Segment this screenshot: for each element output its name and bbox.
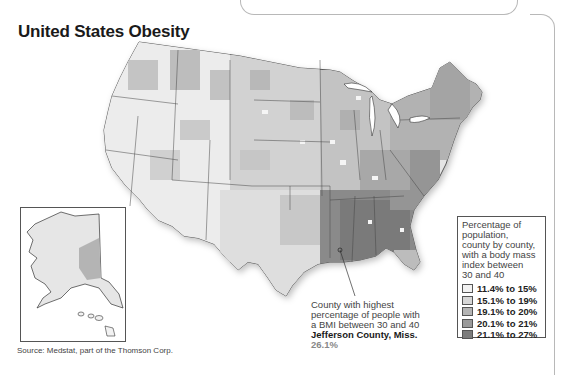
legend-item: 20.1% to 21%	[462, 318, 541, 330]
legend-item-label: 19.1% to 20%	[477, 306, 537, 318]
legend-item: 19.1% to 20%	[462, 306, 541, 318]
legend-item-label: 15.1% to 19%	[477, 295, 537, 307]
legend-item: 21.1% to 27%	[462, 329, 541, 341]
callout-county-value: 26.1%	[311, 340, 420, 350]
legend-title: Percentage of population, county by coun…	[462, 220, 541, 280]
source-note: Source: Medstat, part of the Thomson Cor…	[17, 346, 173, 355]
legend-swatch	[462, 284, 473, 293]
alaska-hawaii-inset	[20, 207, 126, 342]
legend-item-label: 11.4% to 15%	[477, 283, 537, 295]
county-shading	[100, 40, 490, 300]
highest-county-callout: County with highest percentage of people…	[311, 300, 420, 350]
map-legend: Percentage of population, county by coun…	[457, 216, 546, 338]
legend-item: 11.4% to 15%	[462, 283, 541, 295]
legend-item: 15.1% to 19%	[462, 295, 541, 307]
legend-swatch	[462, 296, 473, 305]
alaska-hawaii-map	[21, 208, 125, 341]
legend-item-label: 20.1% to 21%	[477, 318, 537, 330]
legend-item-label: 21.1% to 27%	[477, 329, 537, 341]
legend-swatch	[462, 307, 473, 316]
legend-swatch	[462, 330, 473, 339]
legend-title-line: 30 and 40	[462, 270, 541, 280]
legend-swatch	[462, 319, 473, 328]
